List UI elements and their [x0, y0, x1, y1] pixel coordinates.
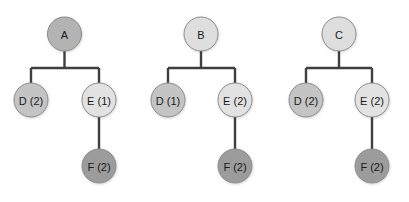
- node-label: E (2): [223, 95, 247, 107]
- node-label: F (2): [223, 161, 246, 173]
- node-c: C: [322, 17, 356, 51]
- node-f: F (2): [218, 149, 252, 183]
- tree-c: CD (2)E (2)F (2): [289, 17, 389, 183]
- node-label: C: [335, 29, 343, 41]
- node-e: E (2): [218, 83, 252, 117]
- node-label: D (2): [294, 95, 318, 107]
- node-b: B: [184, 17, 218, 51]
- node-d: D (1): [151, 83, 185, 117]
- node-d: D (2): [14, 83, 48, 117]
- node-label: D (1): [156, 95, 180, 107]
- node-f: F (2): [355, 149, 389, 183]
- node-label: F (2): [87, 161, 110, 173]
- node-a: A: [48, 17, 82, 51]
- tree-a: AD (2)E (1)F (2): [14, 17, 116, 183]
- node-d: D (2): [289, 83, 323, 117]
- tree-diagram-canvas: AD (2)E (1)F (2)BD (1)E (2)F (2)CD (2)E …: [0, 0, 409, 202]
- tree-b: BD (1)E (2)F (2): [151, 17, 252, 183]
- node-label: D (2): [19, 95, 43, 107]
- node-f: F (2): [82, 149, 116, 183]
- node-label: E (2): [360, 95, 384, 107]
- node-label: F (2): [360, 161, 383, 173]
- node-e: E (1): [82, 83, 116, 117]
- node-label: A: [61, 29, 69, 41]
- node-label: B: [197, 29, 204, 41]
- node-label: E (1): [87, 95, 111, 107]
- node-e: E (2): [355, 83, 389, 117]
